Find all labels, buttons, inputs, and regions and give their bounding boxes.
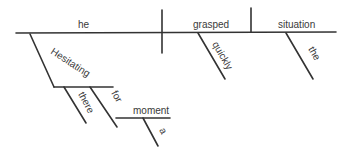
sentence-diagram: he grasped situation quickly the Hesitat… xyxy=(0,0,350,159)
word-a: a xyxy=(157,126,170,136)
word-grasped: grasped xyxy=(193,19,229,30)
diagram-canvas: he grasped situation quickly the Hesitat… xyxy=(0,0,350,159)
hesitating-slant xyxy=(30,34,54,87)
word-the: the xyxy=(306,45,323,63)
word-for: for xyxy=(109,89,125,105)
a-slant xyxy=(143,118,158,146)
baseline xyxy=(16,32,336,33)
word-hesitating: Hesitating xyxy=(49,45,92,78)
the-slant xyxy=(286,33,313,79)
word-he: he xyxy=(78,19,90,30)
word-quickly: quickly xyxy=(210,40,235,72)
word-situation: situation xyxy=(278,19,315,30)
word-moment: moment xyxy=(133,105,169,116)
